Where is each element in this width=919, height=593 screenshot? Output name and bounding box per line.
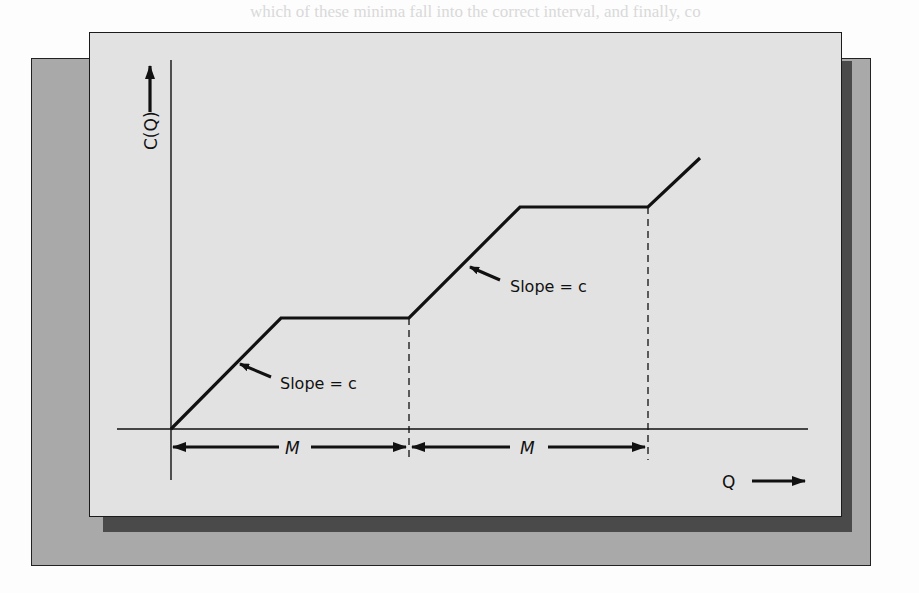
x-axis-label: Q [722,472,735,492]
slope-label-1: Slope = c [280,374,357,393]
slope-leader-arrow-1 [240,364,271,377]
slope-leader-arrow-2 [470,267,500,280]
cost-function-diagram: C(Q) Q Slope = c Slope = c M M [0,0,919,593]
y-axis-label: C(Q) [141,111,161,150]
slope-label-2: Slope = c [510,277,587,296]
interval-label-2: M [520,438,535,458]
interval-label-1: M [285,438,300,458]
cost-curve [171,158,700,429]
